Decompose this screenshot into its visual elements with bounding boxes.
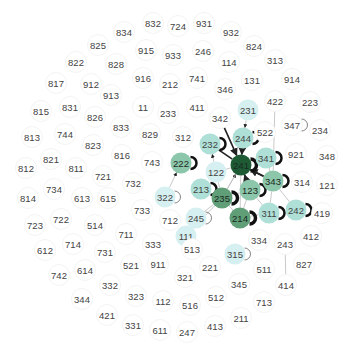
graph-node-824[interactable]: 824 (244, 36, 265, 57)
graph-node-212[interactable]: 212 (160, 74, 181, 95)
graph-node-714[interactable]: 714 (63, 234, 84, 255)
graph-node-222[interactable]: 222 (171, 153, 192, 174)
graph-node-722[interactable]: 722 (51, 209, 72, 230)
graph-node-247[interactable]: 247 (177, 322, 198, 343)
graph-node-233[interactable]: 233 (158, 103, 179, 124)
graph-node-931[interactable]: 931 (194, 13, 215, 34)
graph-node-246[interactable]: 246 (193, 41, 214, 62)
graph-node-123[interactable]: 123 (240, 180, 261, 201)
graph-node-112[interactable]: 112 (153, 291, 174, 312)
graph-node-724[interactable]: 724 (168, 16, 189, 37)
graph-node-815[interactable]: 815 (31, 101, 52, 122)
graph-node-332[interactable]: 332 (100, 275, 121, 296)
graph-node-511[interactable]: 511 (254, 259, 275, 280)
graph-node-243[interactable]: 243 (275, 234, 296, 255)
graph-node-731[interactable]: 731 (95, 242, 116, 263)
graph-node-915[interactable]: 915 (136, 40, 157, 61)
graph-node-414[interactable]: 414 (276, 275, 297, 296)
graph-node-829[interactable]: 829 (140, 124, 161, 145)
graph-node-422[interactable]: 422 (265, 91, 286, 112)
graph-node-114[interactable]: 114 (219, 52, 240, 73)
graph-node-912[interactable]: 912 (81, 74, 102, 95)
graph-node-121[interactable]: 121 (317, 175, 338, 196)
graph-node-321[interactable]: 321 (175, 267, 196, 288)
graph-node-741[interactable]: 741 (187, 68, 208, 89)
graph-node-419[interactable]: 419 (312, 203, 333, 224)
graph-node-823[interactable]: 823 (83, 135, 104, 156)
graph-node-914[interactable]: 914 (282, 69, 303, 90)
graph-node-812[interactable]: 812 (16, 158, 37, 179)
graph-node-223[interactable]: 223 (300, 92, 321, 113)
graph-node-831[interactable]: 831 (60, 97, 81, 118)
graph-node-916[interactable]: 916 (133, 68, 154, 89)
graph-node-343[interactable]: 343 (263, 171, 284, 192)
graph-node-11[interactable]: 11 (133, 97, 154, 118)
graph-node-245[interactable]: 245 (186, 208, 207, 229)
graph-node-723[interactable]: 723 (25, 215, 46, 236)
graph-node-513[interactable]: 513 (182, 239, 203, 260)
graph-node-231[interactable]: 231 (238, 100, 259, 121)
graph-node-932[interactable]: 932 (221, 22, 242, 43)
graph-node-816[interactable]: 816 (112, 145, 133, 166)
graph-node-314[interactable]: 314 (292, 172, 313, 193)
graph-node-733[interactable]: 733 (132, 200, 153, 221)
graph-node-345[interactable]: 345 (229, 274, 250, 295)
graph-node-512[interactable]: 512 (206, 287, 227, 308)
graph-node-611[interactable]: 611 (150, 320, 171, 341)
graph-node-732[interactable]: 732 (123, 173, 144, 194)
graph-node-834[interactable]: 834 (114, 22, 135, 43)
graph-node-211[interactable]: 211 (231, 308, 252, 329)
graph-node-833[interactable]: 833 (111, 117, 132, 138)
graph-node-333[interactable]: 333 (143, 234, 164, 255)
graph-node-234[interactable]: 234 (310, 120, 331, 141)
graph-node-413[interactable]: 413 (205, 316, 226, 337)
graph-node-412[interactable]: 412 (301, 226, 322, 247)
graph-node-122[interactable]: 122 (206, 162, 227, 183)
graph-node-827[interactable]: 827 (294, 254, 315, 275)
graph-node-411[interactable]: 411 (187, 97, 208, 118)
graph-node-322[interactable]: 322 (155, 187, 176, 208)
graph-node-711[interactable]: 711 (116, 224, 137, 245)
graph-node-813[interactable]: 813 (22, 127, 43, 148)
graph-node-514[interactable]: 514 (85, 215, 106, 236)
graph-node-612[interactable]: 612 (35, 240, 56, 261)
graph-node-613[interactable]: 613 (72, 188, 93, 209)
graph-node-734[interactable]: 734 (44, 179, 65, 200)
graph-node-315[interactable]: 315 (225, 244, 246, 265)
graph-node-615[interactable]: 615 (98, 188, 119, 209)
graph-node-828[interactable]: 828 (106, 54, 127, 75)
graph-node-614[interactable]: 614 (75, 260, 96, 281)
graph-node-344[interactable]: 344 (72, 289, 93, 310)
graph-node-241[interactable]: 241 (231, 155, 252, 176)
graph-node-311[interactable]: 311 (259, 203, 280, 224)
graph-node-331[interactable]: 331 (123, 315, 144, 336)
graph-node-814[interactable]: 814 (18, 188, 39, 209)
graph-node-713[interactable]: 713 (254, 292, 275, 313)
graph-node-825[interactable]: 825 (88, 35, 109, 56)
graph-node-232[interactable]: 232 (200, 134, 221, 155)
graph-node-323[interactable]: 323 (126, 286, 147, 307)
graph-node-744[interactable]: 744 (55, 124, 76, 145)
graph-node-342[interactable]: 342 (210, 108, 231, 129)
graph-node-235[interactable]: 235 (212, 188, 233, 209)
graph-node-811[interactable]: 811 (66, 158, 87, 179)
graph-node-721[interactable]: 721 (93, 166, 114, 187)
graph-node-214[interactable]: 214 (230, 208, 251, 229)
graph-node-743[interactable]: 743 (142, 152, 163, 173)
graph-node-933[interactable]: 933 (163, 45, 184, 66)
graph-node-913[interactable]: 913 (101, 85, 122, 106)
graph-node-712[interactable]: 712 (160, 210, 181, 231)
graph-node-341[interactable]: 341 (256, 148, 277, 169)
graph-node-221[interactable]: 221 (200, 257, 221, 278)
graph-node-522[interactable]: 522 (255, 122, 276, 143)
graph-node-348[interactable]: 348 (317, 146, 338, 167)
graph-node-817[interactable]: 817 (46, 73, 67, 94)
graph-node-244[interactable]: 244 (233, 128, 254, 149)
graph-node-832[interactable]: 832 (143, 13, 164, 34)
graph-node-921[interactable]: 921 (286, 144, 307, 165)
graph-node-516[interactable]: 516 (180, 295, 201, 316)
graph-node-242[interactable]: 242 (286, 200, 307, 221)
graph-node-822[interactable]: 822 (66, 52, 87, 73)
graph-node-421[interactable]: 421 (97, 305, 118, 326)
graph-node-911[interactable]: 911 (148, 254, 169, 275)
